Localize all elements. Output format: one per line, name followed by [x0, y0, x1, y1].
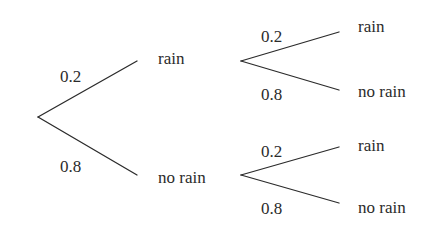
branch-no-rain-rain: [241, 147, 339, 175]
branch-rain-rain: [241, 32, 339, 61]
level2-after-rain-branches: [241, 32, 339, 90]
outcome-level1-rain: rain: [158, 49, 185, 68]
probability-tree-diagram: 0.2 0.8 rain no rain 0.2 0.8 rain no rai…: [0, 0, 442, 229]
prob-rain-no-rain: 0.8: [261, 85, 282, 104]
level2-after-no-rain-branches: [241, 147, 339, 203]
prob-no-rain-rain: 0.2: [261, 142, 282, 161]
prob-level1-no-rain: 0.8: [60, 157, 81, 176]
branch-level1-rain: [38, 61, 137, 117]
level1-branches: [38, 61, 137, 175]
outcome-no-rain-rain: rain: [358, 136, 385, 155]
prob-rain-rain: 0.2: [261, 27, 282, 46]
prob-level1-rain: 0.2: [60, 67, 81, 86]
branch-rain-no-rain: [241, 61, 339, 90]
branch-no-rain-no-rain: [241, 175, 339, 203]
outcome-rain-no-rain: no rain: [358, 82, 406, 101]
branch-level1-no-rain: [38, 117, 137, 175]
prob-no-rain-no-rain: 0.8: [261, 199, 282, 218]
outcome-no-rain-no-rain: no rain: [358, 198, 406, 217]
outcome-level1-no-rain: no rain: [158, 168, 206, 187]
outcome-rain-rain: rain: [358, 17, 385, 36]
